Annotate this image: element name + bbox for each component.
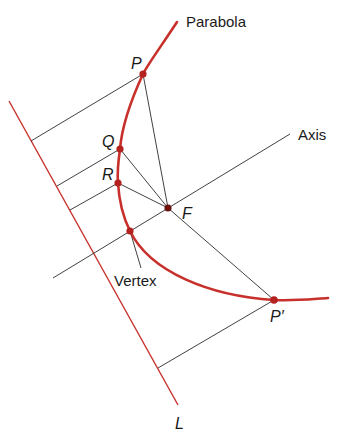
vertex-marker — [126, 227, 133, 234]
point-pprime-marker — [270, 296, 278, 304]
axis-label: Axis — [298, 126, 326, 143]
perp-r-to-l — [70, 183, 118, 210]
focus-label: F — [182, 205, 193, 222]
perpendicular-lines — [31, 74, 274, 368]
vertex-label: Vertex — [114, 272, 157, 289]
point-pprime-label: P′ — [270, 308, 285, 325]
point-r-marker — [114, 179, 121, 186]
directrix-label: L — [175, 415, 184, 432]
segment-p-f — [143, 74, 168, 208]
segment-q-f — [120, 149, 168, 208]
point-q-marker — [116, 145, 123, 152]
point-r-label: R — [102, 166, 114, 183]
focus-marker — [164, 204, 171, 211]
parabola-curve — [118, 22, 328, 300]
axis-line — [53, 134, 290, 278]
perp-pprime-to-l — [158, 300, 274, 368]
parabola-label: Parabola — [186, 13, 247, 30]
focal-lines — [118, 74, 274, 300]
segment-r-f — [118, 183, 168, 208]
point-p-label: P — [131, 55, 142, 72]
perp-p-to-l — [31, 74, 143, 141]
curve-points — [114, 70, 277, 303]
point-q-label: Q — [102, 133, 114, 150]
parabola-diagram: Parabola Axis Vertex P Q R F P′ L — [0, 0, 364, 441]
